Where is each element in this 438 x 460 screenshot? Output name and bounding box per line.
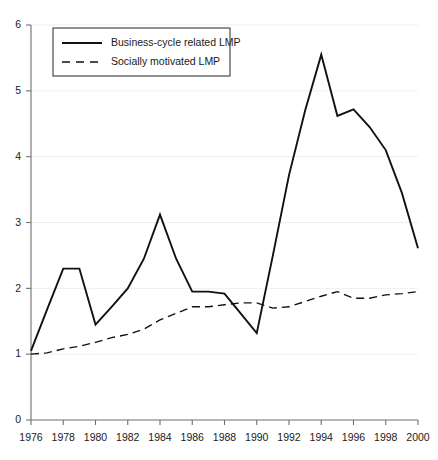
y-tick-label-2: 2 <box>15 282 21 294</box>
x-tick-label-1992: 1992 <box>277 431 301 443</box>
x-tick-label-1986: 1986 <box>181 431 205 443</box>
legend-border <box>53 28 230 76</box>
x-tick-label-1988: 1988 <box>213 431 237 443</box>
y-tick-label-5: 5 <box>15 84 21 96</box>
x-tick-label-1990: 1990 <box>245 431 269 443</box>
legend-label-socially-motivated-lmp: Socially motivated LMP <box>111 55 220 67</box>
x-tick-label-1998: 1998 <box>374 431 398 443</box>
chart-figure: 0123456 19761978198019821984198619881990… <box>0 0 438 460</box>
x-tick-label-1984: 1984 <box>148 431 172 443</box>
y-tick-label-4: 4 <box>15 150 21 162</box>
x-tick-label-1976: 1976 <box>19 431 43 443</box>
x-tick-label-1996: 1996 <box>342 431 366 443</box>
x-tick-label-1978: 1978 <box>52 431 76 443</box>
x-tick-label-2000: 2000 <box>406 431 430 443</box>
y-tick-label-1: 1 <box>15 347 21 359</box>
chart-legend: Business-cycle related LMP Socially moti… <box>53 28 241 76</box>
y-tick-label-3: 3 <box>15 216 21 228</box>
x-tick-label-1982: 1982 <box>116 431 140 443</box>
x-tick-label-1994: 1994 <box>310 431 334 443</box>
y-tick-label-0: 0 <box>15 413 21 425</box>
x-tick-label-1980: 1980 <box>84 431 108 443</box>
legend-label-business-cycle-related-lmp: Business-cycle related LMP <box>111 36 241 48</box>
y-tick-label-6: 6 <box>15 18 21 30</box>
line-chart: 0123456 19761978198019821984198619881990… <box>0 0 438 460</box>
